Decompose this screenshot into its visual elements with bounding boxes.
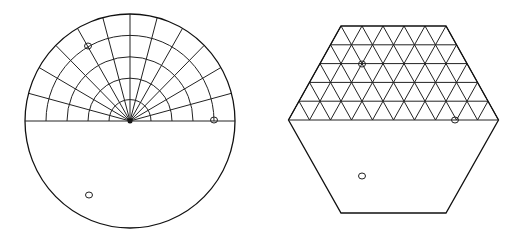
grid-diagonal [394,101,405,120]
grid-diagonal [404,64,415,83]
grid-diagonal [352,26,363,45]
polar-spoke [56,45,130,121]
polar-spoke [78,28,131,121]
grid-diagonal [425,26,436,45]
grid-diagonal [352,101,363,120]
grid-diagonal [457,101,468,120]
triangle-grid-lines [289,26,499,120]
grid-diagonal [310,101,321,120]
polar-spoke [130,18,157,121]
grid-diagonal [341,45,352,64]
grid-diagonal [425,101,436,120]
grid-diagonal [394,26,405,45]
grid-diagonal [467,101,478,120]
grid-diagonal [425,45,436,64]
grid-diagonal [436,101,447,120]
grid-diagonal [362,101,373,120]
triangular-grid-hexagon [289,26,499,213]
grid-diagonal [394,82,405,101]
polar-spoke [29,93,130,121]
grid-diagonal [425,64,436,83]
grid-diagonal [404,82,415,101]
grid-diagonal [436,82,447,101]
grid-diagonal [331,64,342,83]
grid-diagonal [373,26,384,45]
grid-diagonal [383,101,394,120]
grid-diagonal [373,101,384,120]
grid-diagonal [478,101,489,120]
grid-diagonal [320,101,331,120]
grid-diagonal [310,82,321,101]
grid-diagonal [425,82,436,101]
grid-diagonal [299,101,310,120]
grid-diagonal [362,26,373,45]
polar-spoke [130,93,231,121]
polar-spoke [39,68,130,122]
grid-diagonal [415,64,426,83]
grid-diagonal [383,26,394,45]
grid-diagonal [341,64,352,83]
grid-diagonal [383,82,394,101]
grid-diagonal [373,82,384,101]
grid-diagonal [404,26,415,45]
grid-diagonal [362,82,373,101]
grid-diagonal [415,45,426,64]
grid-diagonal [404,45,415,64]
polar-spoke [130,28,183,121]
grid-diagonal [415,82,426,101]
point-marker [86,192,93,198]
grid-diagonal [394,45,405,64]
grid-diagonal [404,101,415,120]
grid-diagonal [341,82,352,101]
grid-diagonal [331,101,342,120]
grid-diagonal [457,64,468,83]
grid-diagonal [446,64,457,83]
polar-spoke [103,18,130,121]
grid-diagonal [415,101,426,120]
polar-spoke [130,45,204,121]
grid-diagonal [383,64,394,83]
polar-spoke [130,68,221,122]
grid-diagonal [341,101,352,120]
grid-diagonal [467,82,478,101]
grid-diagonal [394,64,405,83]
grid-diagonal [320,64,331,83]
grid-diagonal [373,64,384,83]
grid-diagonal [446,82,457,101]
grid-diagonal [457,82,468,101]
grid-diagonal [373,45,384,64]
grid-diagonal [320,82,331,101]
grid-diagonal [331,45,342,64]
grid-diagonal [436,26,447,45]
polar-grid-lines [29,14,232,124]
diagram-canvas [0,0,518,236]
grid-diagonal [415,26,426,45]
point-marker [359,173,366,179]
grid-diagonal [352,82,363,101]
grid-diagonal [446,45,457,64]
polar-grid-circle [25,14,235,228]
grid-diagonal [436,45,447,64]
grid-diagonal [436,64,447,83]
grid-diagonal [383,45,394,64]
grid-diagonal [341,26,352,45]
grid-diagonal [331,82,342,101]
